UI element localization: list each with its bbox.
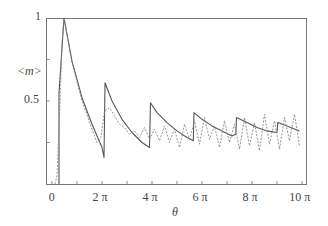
x-tick-label: 2 π [92,190,107,205]
x-tick-label: 4 π [142,190,157,205]
x-tick-label: 10 π [289,190,310,205]
series-solid-line [59,18,300,184]
y-tick-label: 1 [35,9,41,24]
x-tick-label: 6 π [192,190,207,205]
series-dashed-line [55,18,300,184]
data-series [55,18,300,184]
x-axis-title: θ [172,205,178,220]
y-tick-label: 0.5 [24,92,39,107]
x-tick-label: 0 [49,190,55,205]
y-axis-title: <m> [17,64,42,79]
plot-frame [47,19,307,185]
x-tick-label: 8 π [242,190,257,205]
